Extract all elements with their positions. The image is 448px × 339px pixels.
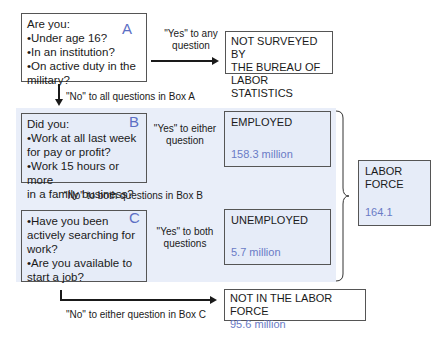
box-b-line-0: Did you: bbox=[27, 117, 141, 131]
employed-title: EMPLOYED bbox=[231, 116, 324, 129]
arrow-head-down-icon bbox=[55, 99, 63, 106]
box-c-line-3: •Are you available to bbox=[27, 256, 141, 270]
brace-icon bbox=[334, 110, 354, 282]
box-a-letter: A bbox=[122, 22, 132, 36]
box-c-questions: •Have you been actively searching for wo… bbox=[21, 210, 147, 282]
box-b-yes-label-line-0: "Yes" to either bbox=[150, 123, 220, 135]
labor-force-title-1: FORCE bbox=[365, 178, 424, 191]
box-a-questions: Are you: •Under age 16? •In an instituti… bbox=[21, 13, 147, 82]
labor-force-value: 164.1 bbox=[365, 206, 393, 219]
unemployed-value: 5.7 million bbox=[231, 246, 281, 259]
arrow-head-right-icon bbox=[212, 57, 219, 65]
labor-force-title-0: LABOR bbox=[365, 165, 424, 178]
box-b-questions: Did you: •Work at all last week for pay … bbox=[21, 113, 147, 183]
unemployed-title: UNEMPLOYED bbox=[231, 214, 324, 227]
not-surveyed-line-2: LABOR STATISTICS bbox=[231, 74, 327, 100]
box-b-line-2: for pay or profit? bbox=[27, 145, 141, 159]
box-c-line-0: •Have you been bbox=[27, 214, 141, 228]
not-in-labor-force-value: 95.6 million bbox=[230, 318, 360, 331]
box-a-yes-label-line-0: "Yes" to any bbox=[156, 28, 226, 40]
not-in-labor-force-box: NOT IN THE LABOR FORCE 95.6 million bbox=[224, 289, 366, 321]
box-b-yes-label-line-1: question bbox=[150, 135, 220, 147]
box-c-line-4: start a job? bbox=[27, 270, 141, 284]
box-c-line-2: work? bbox=[27, 242, 141, 256]
arrow-head-right-icon bbox=[210, 296, 217, 304]
arrow-c-to-not-in-labor-force bbox=[60, 299, 212, 301]
box-b-yes-label: "Yes" to either question bbox=[150, 123, 220, 147]
not-surveyed-box: NOT SURVEYED BY THE BUREAU OF LABOR STAT… bbox=[225, 31, 333, 74]
employed-value: 158.3 million bbox=[231, 148, 293, 161]
box-a-line-4: military? bbox=[27, 73, 141, 87]
not-in-labor-force-title: NOT IN THE LABOR FORCE bbox=[230, 292, 360, 318]
arrow-a-to-not-surveyed bbox=[151, 60, 214, 62]
box-c-letter: C bbox=[129, 211, 140, 225]
box-b-line-1: •Work at all last week bbox=[27, 131, 141, 145]
box-c-yes-label-line-1: questions bbox=[150, 238, 220, 250]
not-surveyed-line-1: THE BUREAU OF bbox=[231, 61, 327, 74]
box-b-letter: B bbox=[129, 115, 139, 129]
employed-box: EMPLOYED 158.3 million bbox=[224, 111, 331, 167]
arrow-a-to-b bbox=[58, 84, 60, 100]
box-c-line-1: actively searching for bbox=[27, 228, 141, 242]
unemployed-box: UNEMPLOYED 5.7 million bbox=[224, 209, 331, 265]
box-a-no-label: "No" to all questions in Box A bbox=[66, 91, 195, 103]
box-b-no-label: "No" to both questions in Box B bbox=[64, 190, 203, 202]
box-c-yes-label-line-0: "Yes" to both bbox=[150, 226, 220, 238]
box-c-yes-label: "Yes" to both questions bbox=[150, 226, 220, 250]
box-b-line-3: •Work 15 hours or more bbox=[27, 159, 141, 187]
not-surveyed-line-0: NOT SURVEYED BY bbox=[231, 35, 327, 61]
box-a-yes-label: "Yes" to any question bbox=[156, 28, 226, 52]
box-c-no-label: "No" to either question in Box C bbox=[66, 309, 206, 321]
labor-force-box: LABOR FORCE 164.1 bbox=[358, 160, 431, 226]
box-a-line-3: •On active duty in the bbox=[27, 59, 141, 73]
box-a-line-2: •In an institution? bbox=[27, 45, 141, 59]
box-a-yes-label-line-1: question bbox=[156, 40, 226, 52]
